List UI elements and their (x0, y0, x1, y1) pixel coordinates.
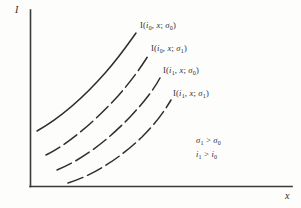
label-sigma-subscript: 1 (181, 48, 184, 54)
plot-canvas (0, 0, 301, 208)
annotation-sigma-inequality: σ1 > σ0 (196, 134, 221, 148)
annotation-lhs-subscript: 1 (200, 140, 203, 146)
annotation-rhs-symbol: σ (213, 135, 217, 145)
annotation-intensity-inequality: i1 > i0 (196, 148, 221, 162)
label-sigma-subscript: 0 (193, 70, 196, 76)
x-axis-label: x (285, 190, 289, 201)
y-axis-label: I (15, 4, 18, 15)
curve-label-i1-sigma1: I(i1, x; σ1) (173, 88, 209, 98)
label-sigma-subscript: 1 (203, 93, 206, 99)
annotation-relation: > (202, 149, 212, 159)
label-tail: ) (196, 65, 199, 75)
annotation-lhs-subscript: 1 (199, 154, 202, 160)
label-i-subscript: 0 (160, 48, 163, 54)
annotation-relation: > (204, 135, 214, 145)
label-tail: ) (206, 88, 209, 98)
annotation-block: σ1 > σ0 i1 > i0 (196, 134, 221, 162)
annotation-rhs-subscript: 0 (214, 154, 217, 160)
figure-container: I x I(i0, x; σ0) I(i0, x; σ1) I(i1, x; σ… (0, 0, 301, 208)
label-tail: ) (173, 20, 176, 30)
curve-i1-sigma0 (57, 78, 160, 170)
label-i-subscript: 0 (149, 25, 152, 31)
label-i-subscript: 1 (182, 93, 185, 99)
curve-i0-sigma1 (46, 56, 148, 155)
annotation-rhs-subscript: 0 (218, 140, 221, 146)
curve-label-i0-sigma0: I(i0, x; σ0) (140, 20, 176, 30)
curve-label-i1-sigma0: I(i1, x; σ0) (163, 65, 199, 75)
curve-i0-sigma0 (37, 33, 136, 131)
curve-label-i0-sigma1: I(i0, x; σ1) (151, 43, 187, 53)
label-i-subscript: 1 (172, 70, 175, 76)
label-tail: ) (184, 43, 187, 53)
label-sigma-subscript: 0 (170, 25, 173, 31)
curve-i1-sigma1 (68, 100, 171, 183)
